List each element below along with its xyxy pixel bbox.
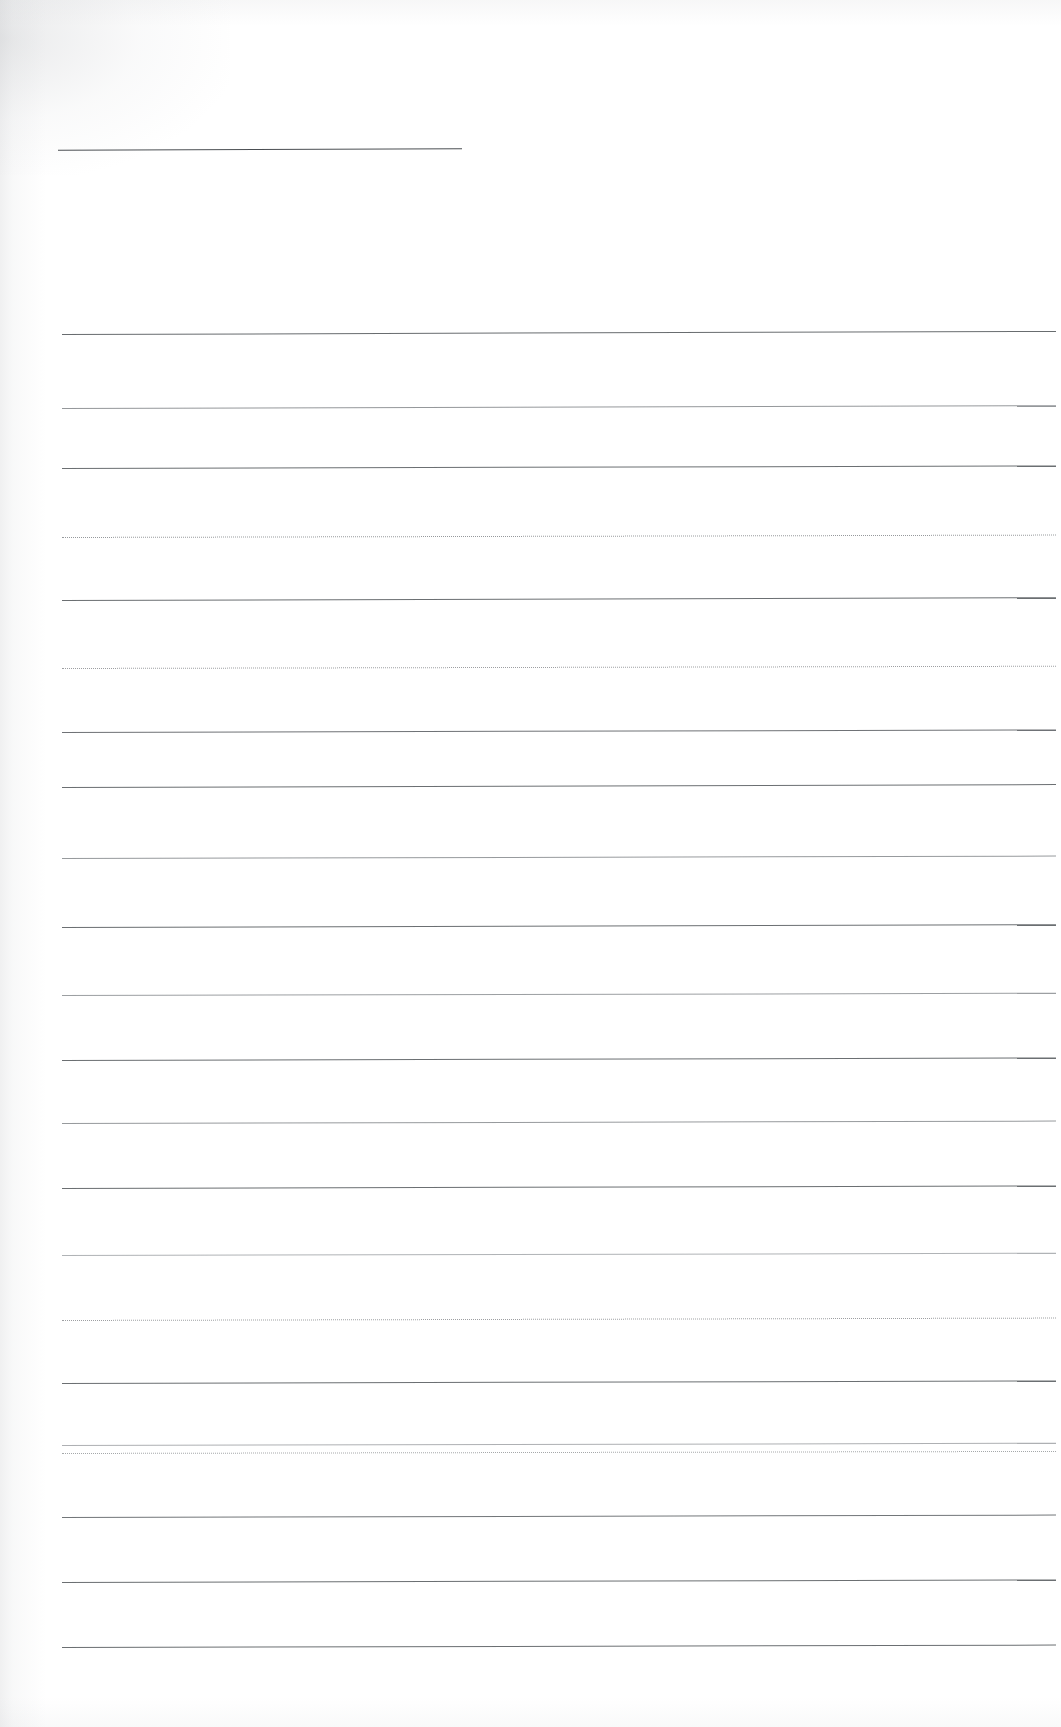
ruled-line: [62, 1515, 1056, 1518]
ruled-line: [62, 856, 1056, 859]
scan-shading-bottom-edge: [0, 1697, 1061, 1727]
scanned-page: [0, 0, 1061, 1727]
ruled-line: [62, 331, 1056, 335]
ruled-line: [62, 1185, 1056, 1189]
header-rule-line: [58, 148, 462, 151]
ruled-line: [62, 666, 1056, 669]
ruled-line: [62, 535, 1056, 538]
ruled-line: [62, 1253, 1056, 1256]
ruled-line: [62, 924, 1056, 928]
ruled-line: [62, 405, 1056, 409]
ruled-line: [62, 465, 1056, 469]
ruled-line: [62, 1579, 1056, 1583]
ruled-line: [62, 1443, 1056, 1446]
ruled-line: [62, 1380, 1056, 1384]
ruled-line: [62, 1318, 1056, 1321]
ruled-line: [62, 1645, 1056, 1648]
ruled-line: [62, 729, 1056, 733]
ruled-line: [62, 784, 1056, 788]
scan-shading-top: [0, 0, 1061, 26]
ruled-line: [62, 597, 1056, 601]
ruled-line: [62, 1121, 1056, 1124]
ruled-line: [62, 993, 1056, 996]
ruled-line: [62, 1451, 1056, 1454]
ruled-line: [62, 1057, 1056, 1061]
scan-shading-left-edge: [0, 0, 46, 1727]
